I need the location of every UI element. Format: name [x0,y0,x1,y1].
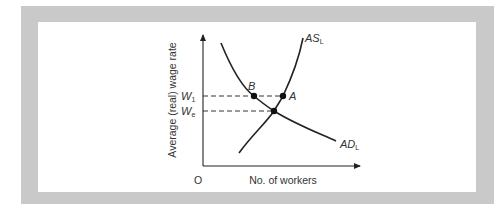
supply-curve-label: ASL [304,32,324,45]
we-label: We [181,105,195,118]
labour-market-diagram: B A W1 We ASL ADL Average (real) wage ra… [0,0,499,211]
equilibrium-point [271,108,277,114]
demand-curve-label: ADL [339,138,359,151]
y-axis-label: Average (real) wage rate [166,42,178,158]
point-a [280,93,286,99]
point-a-label: A [288,90,296,102]
w1-label: W1 [181,90,195,103]
origin-label: O [194,174,202,186]
point-b [251,93,257,99]
x-axis-label: No. of workers [249,174,317,186]
demand-curve [221,43,336,141]
point-b-label: B [248,80,255,92]
